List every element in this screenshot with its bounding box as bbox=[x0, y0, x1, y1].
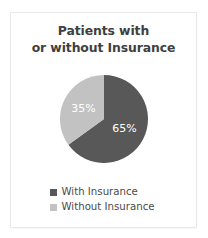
title-line-2: or without Insurance bbox=[11, 40, 196, 57]
chart-page: Patients with or without Insurance 65% 3… bbox=[0, 0, 208, 238]
pie-label-without-insurance: 35% bbox=[71, 102, 95, 115]
legend-label-without-insurance: Without Insurance bbox=[62, 201, 155, 213]
legend-swatch-icon-with-insurance bbox=[50, 189, 57, 196]
pie-chart: 65% 35% bbox=[11, 69, 196, 191]
title-line-1: Patients with bbox=[11, 23, 196, 40]
legend-item-without-insurance[interactable]: Without Insurance bbox=[50, 201, 158, 213]
legend-label-with-insurance: With Insurance bbox=[62, 186, 138, 198]
legend-item-with-insurance[interactable]: With Insurance bbox=[50, 186, 158, 198]
pie-label-with-insurance: 65% bbox=[112, 122, 136, 135]
chart-card: Patients with or without Insurance 65% 3… bbox=[10, 12, 197, 228]
chart-legend: With Insurance Without Insurance bbox=[11, 186, 196, 213]
page-title: Patients with or without Insurance bbox=[11, 23, 196, 56]
legend-swatch-icon-without-insurance bbox=[50, 204, 57, 211]
pie-chart-svg: 65% 35% bbox=[54, 69, 154, 169]
